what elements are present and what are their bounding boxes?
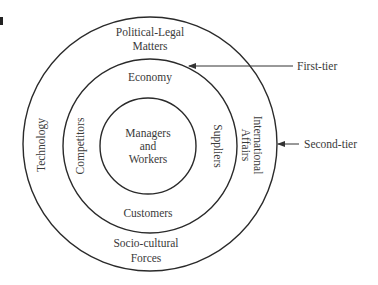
label-workers: Workers: [129, 153, 168, 165]
label-second-tier: Second-tier: [304, 138, 357, 150]
label-international: International: [252, 116, 264, 175]
label-first-tier: First-tier: [297, 60, 337, 72]
label-technology: Technology: [35, 118, 48, 172]
label-customers: Customers: [123, 207, 173, 219]
label-economy: Economy: [128, 71, 172, 84]
environment-tiers-diagram: Political-Legal Matters Technology Inter…: [0, 0, 378, 285]
label-socio-cultural: Socio-cultural: [113, 237, 178, 249]
label-managers: Managers: [125, 127, 171, 140]
label-and: and: [140, 140, 157, 152]
label-competitors: Competitors: [74, 117, 87, 174]
label-matters: Matters: [132, 40, 168, 52]
label-political-legal: Political-Legal: [116, 26, 184, 39]
label-suppliers: Suppliers: [211, 124, 224, 168]
label-affairs: Affairs: [240, 129, 252, 162]
label-forces: Forces: [131, 252, 162, 264]
